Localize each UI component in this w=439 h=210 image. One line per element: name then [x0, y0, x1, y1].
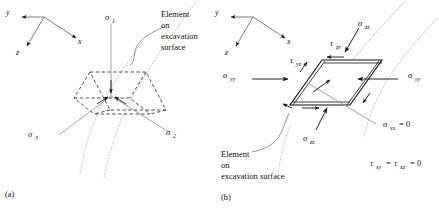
- sigma-xx-zero-subscript: xx: [389, 125, 396, 131]
- annotation-line-2-a: on: [161, 20, 170, 30]
- axis-label-x-a: x: [77, 37, 82, 46]
- figure-container: y x z σ 1 σ 3: [0, 0, 439, 210]
- tau-yz-subscript: yz: [295, 61, 302, 67]
- annotation-line-2-b: on: [221, 160, 230, 170]
- sigma3-subscript: 3: [34, 135, 38, 141]
- sigma-zz-top-subscript: zz: [364, 24, 370, 30]
- tau-xy-subscript: xy: [375, 164, 382, 170]
- annotation-line-3-b: excavation surface: [221, 171, 285, 181]
- sigma-zz-bottom-subscript: zz: [309, 139, 315, 145]
- sigma-yy-right-subscript: yy: [414, 76, 421, 82]
- axis-label-y-b: y: [214, 8, 219, 17]
- sigma1-subscript: 1: [112, 18, 115, 24]
- axis-label-y-a: y: [5, 8, 10, 17]
- equation-equals-2: = 0: [410, 158, 421, 168]
- axis-label-x-b: x: [286, 37, 291, 46]
- sigma-yy-left-subscript: yy: [229, 76, 236, 82]
- stress-element-figure: y x z σ 1 σ 3: [0, 0, 439, 210]
- annotation-line-1-a: Element: [161, 9, 190, 19]
- tau-xz-subscript: xz: [399, 164, 406, 170]
- panel-b-caption: (b): [221, 192, 231, 202]
- tau-zy-subscript: zy: [335, 44, 341, 50]
- equation-equals-1: =: [386, 158, 391, 168]
- annotation-line-1-b: Element: [221, 149, 250, 159]
- annotation-line-3-a: excavation: [161, 31, 199, 41]
- panel-a-caption: (a): [5, 189, 15, 199]
- sigma2-subscript: 2: [173, 133, 176, 139]
- annotation-line-4-a: surface: [161, 42, 186, 52]
- sigma-xx-zero-rhs: = 0: [399, 119, 410, 129]
